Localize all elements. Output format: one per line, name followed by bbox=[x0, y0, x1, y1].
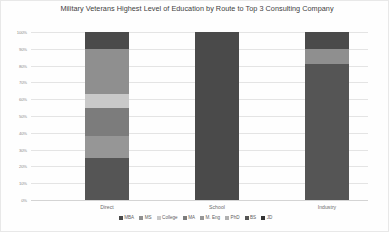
legend-label: MBA bbox=[124, 215, 134, 220]
legend-label: PhD bbox=[231, 215, 240, 220]
plot-area: DirectSchoolIndustry bbox=[31, 32, 368, 200]
x-axis-category-label: Industry bbox=[305, 204, 349, 210]
legend-label: MA bbox=[188, 215, 195, 220]
chart-container: Military Veterans Highest Level of Educa… bbox=[0, 0, 389, 232]
legend-swatch-icon bbox=[183, 216, 187, 220]
chart-legend: MBAMSCollegeMAM. EngPhDBSJD bbox=[1, 215, 389, 220]
y-axis-tick-label: 50% bbox=[19, 114, 27, 119]
y-axis-tick-label: 10% bbox=[19, 181, 27, 186]
bar-segment[interactable] bbox=[305, 32, 349, 49]
y-axis: 100%90%80%70%60%50%40%30%20%10%0% bbox=[1, 32, 29, 200]
x-axis-line bbox=[31, 200, 368, 201]
legend-item[interactable]: JD bbox=[261, 215, 272, 220]
legend-swatch-icon bbox=[157, 216, 161, 220]
y-axis-tick-label: 30% bbox=[19, 147, 27, 152]
legend-item[interactable]: PhD bbox=[225, 215, 239, 220]
legend-label: M. Eng bbox=[206, 215, 221, 220]
legend-swatch-icon bbox=[200, 216, 204, 220]
legend-item[interactable]: M. Eng bbox=[200, 215, 220, 220]
legend-label: BS bbox=[250, 215, 256, 220]
y-axis-tick-label: 20% bbox=[19, 164, 27, 169]
bar-segment[interactable] bbox=[85, 32, 129, 49]
bar-segment[interactable] bbox=[305, 64, 349, 200]
legend-item[interactable]: MA bbox=[183, 215, 195, 220]
bar-stack[interactable] bbox=[85, 32, 129, 200]
y-axis-tick-label: 90% bbox=[19, 46, 27, 51]
x-axis-category-label: Direct bbox=[85, 204, 129, 210]
y-axis-tick-label: 100% bbox=[17, 30, 27, 35]
legend-item[interactable]: MBA bbox=[119, 215, 134, 220]
bar-stack[interactable] bbox=[305, 32, 349, 200]
legend-item[interactable]: BS bbox=[245, 215, 257, 220]
legend-swatch-icon bbox=[261, 216, 265, 220]
bar-stack[interactable] bbox=[195, 32, 239, 200]
bar-segment[interactable] bbox=[85, 49, 129, 94]
bar-segment[interactable] bbox=[305, 49, 349, 64]
x-axis-category-label: School bbox=[195, 204, 239, 210]
legend-item[interactable]: MS bbox=[139, 215, 151, 220]
bar-segment[interactable] bbox=[85, 108, 129, 137]
legend-swatch-icon bbox=[119, 216, 123, 220]
bar-segment[interactable] bbox=[85, 136, 129, 158]
y-axis-tick-label: 80% bbox=[19, 63, 27, 68]
y-axis-tick-label: 0% bbox=[21, 198, 27, 203]
bar-segment[interactable] bbox=[85, 158, 129, 200]
legend-label: MS bbox=[145, 215, 152, 220]
legend-item[interactable]: College bbox=[157, 215, 178, 220]
bar-group[interactable] bbox=[195, 32, 239, 200]
y-axis-tick-label: 40% bbox=[19, 130, 27, 135]
legend-swatch-icon bbox=[139, 216, 143, 220]
legend-label: College bbox=[162, 215, 178, 220]
chart-title: Military Veterans Highest Level of Educa… bbox=[47, 4, 347, 15]
bar-segment[interactable] bbox=[85, 94, 129, 107]
y-axis-tick-label: 70% bbox=[19, 80, 27, 85]
y-axis-tick-label: 60% bbox=[19, 97, 27, 102]
legend-swatch-icon bbox=[245, 216, 249, 220]
bar-group[interactable] bbox=[305, 32, 349, 200]
bar-group[interactable] bbox=[85, 32, 129, 200]
legend-swatch-icon bbox=[225, 216, 229, 220]
bar-segment[interactable] bbox=[195, 32, 239, 200]
legend-label: JD bbox=[267, 215, 273, 220]
